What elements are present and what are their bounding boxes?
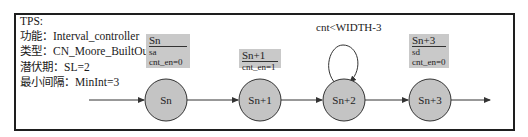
state-diagram: Sn Sn+1 Sn+2 Sn+3 — [0, 0, 528, 137]
self-loop-arrow — [329, 45, 358, 84]
state-label: Sn+3 — [418, 94, 442, 106]
state-label: Sn+2 — [332, 94, 355, 106]
state-label: Sn+1 — [248, 94, 271, 106]
state-label: Sn — [160, 94, 172, 106]
